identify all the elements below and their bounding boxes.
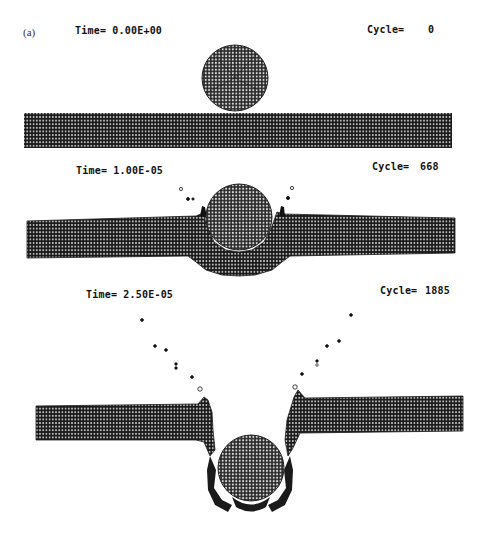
frame-3-cycle-label: Cycle= xyxy=(380,285,417,296)
frame-2-right-rim-lip xyxy=(279,206,285,217)
frame-2 xyxy=(27,184,455,276)
frame-3-time-label: Time= 2.50E-05 xyxy=(86,289,173,300)
frame-3 xyxy=(36,314,463,512)
impact-simulation-figure: (a) Time= 0.00E+00 Cycle= 0 Time= 1.00E-… xyxy=(0,0,485,537)
frame-1-projectile-sphere xyxy=(202,45,268,111)
frame-3-right-plate xyxy=(285,390,463,456)
frame-3-debris-particles xyxy=(141,314,353,391)
frame-3-projectile-sphere xyxy=(218,435,284,512)
frame-3-left-plate xyxy=(36,397,215,456)
frame-1-plate xyxy=(24,113,452,148)
frame-2-projectile-sphere xyxy=(206,184,272,250)
frame-1-cycle-value: 0 xyxy=(428,24,434,35)
frame-1-cycle-label: Cycle= xyxy=(367,24,404,35)
frame-2-time-label: Time= 1.00E-05 xyxy=(76,165,163,176)
frame-3-cycle-value: 1885 xyxy=(425,285,450,296)
frame-2-cycle-label: Cycle= xyxy=(372,161,409,172)
panel-label: (a) xyxy=(23,26,35,38)
frame-1-time-label: Time= 0.00E+00 xyxy=(75,25,162,36)
frame-2-cycle-value: 668 xyxy=(420,161,439,172)
mesh-drawing xyxy=(0,0,485,537)
frame-1 xyxy=(24,45,452,148)
